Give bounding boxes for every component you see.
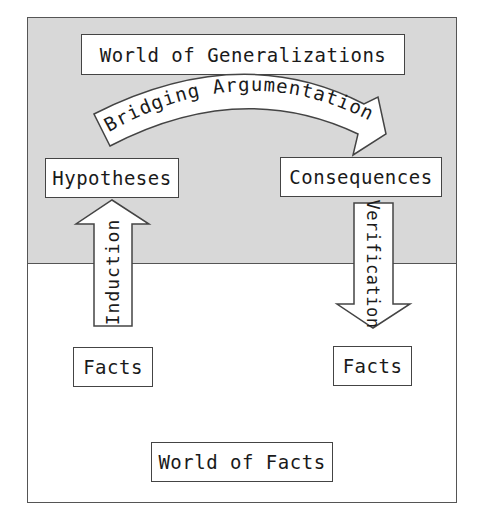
verification-arrow: Verification [337, 200, 410, 329]
verification-arrow-label: Verification [363, 200, 383, 329]
induction-arrow: Induction [76, 200, 149, 326]
induction-arrow-label: Induction [102, 219, 123, 326]
arrows-layer: Bridging Argumentation Induction Verific… [0, 0, 482, 532]
bridging-arrow: Bridging Argumentation [94, 73, 386, 155]
diagram: World of Generalizations Hypotheses Cons… [0, 0, 482, 532]
